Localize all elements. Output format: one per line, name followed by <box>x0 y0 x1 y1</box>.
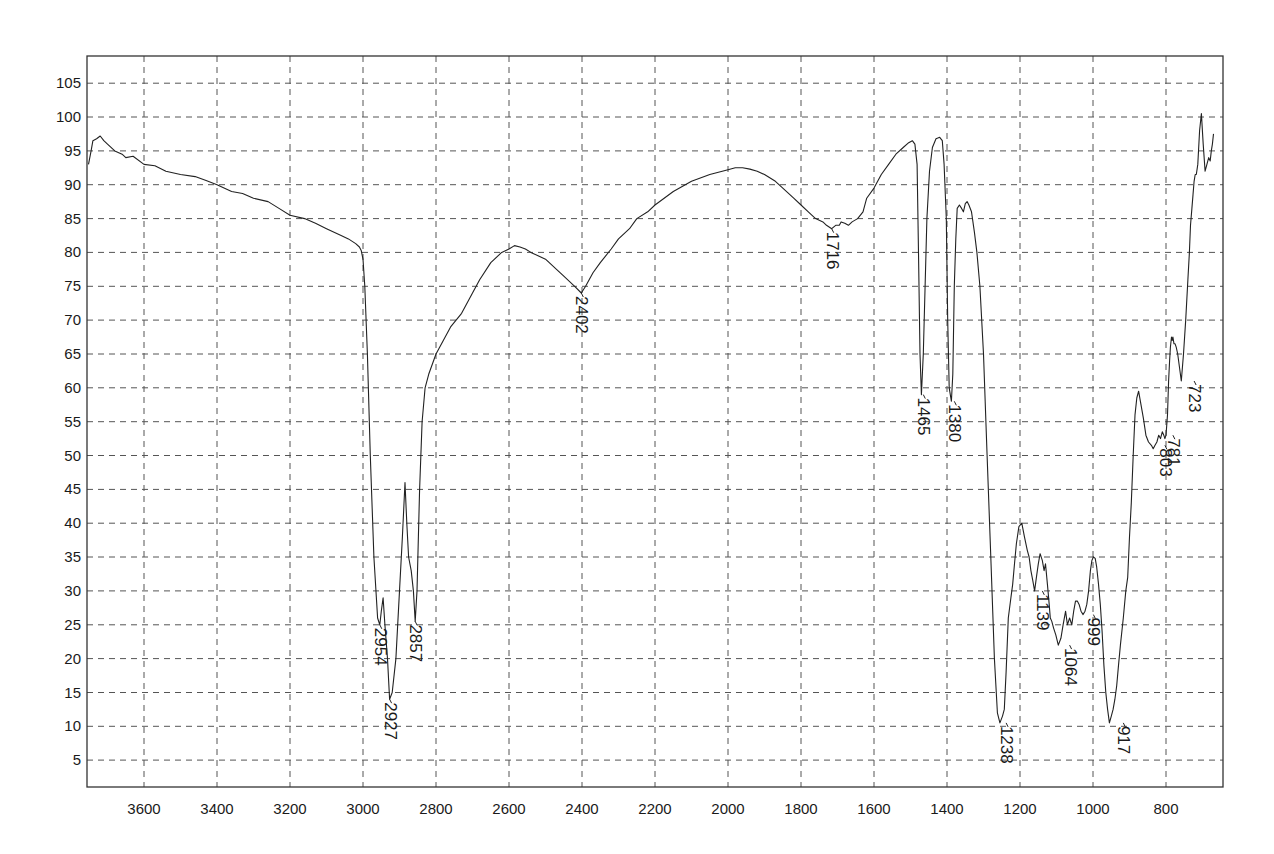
x-tick-label: 2200 <box>638 800 671 817</box>
y-tick-label: 90 <box>64 176 81 193</box>
y-tick-label: 20 <box>64 650 81 667</box>
x-tick-label: 3000 <box>346 800 379 817</box>
y-axis-tick-labels: 5101520253035404550556065707580859095100… <box>56 74 81 768</box>
peak-label: 1064 <box>1061 648 1080 686</box>
y-tick-label: 25 <box>64 616 81 633</box>
peak-label: 2927 <box>381 702 400 740</box>
peak-annotations: 2954292728572402171614651380123811391064… <box>371 229 1204 764</box>
x-tick-label: 1800 <box>784 800 817 817</box>
x-tick-label: 3400 <box>200 800 233 817</box>
x-axis-tick-labels: 3600340032003000280026002400220020001800… <box>127 800 1178 817</box>
x-tick-label: 2600 <box>492 800 525 817</box>
peak-label: 917 <box>1114 726 1133 754</box>
x-tick-label: 1600 <box>857 800 890 817</box>
y-tick-label: 80 <box>64 243 81 260</box>
y-tick-label: 35 <box>64 548 81 565</box>
y-tick-label: 85 <box>64 210 81 227</box>
peak-label: 1139 <box>1033 594 1052 631</box>
peak-label: 2402 <box>572 296 591 334</box>
y-tick-label: 65 <box>64 345 81 362</box>
x-tick-label: 1400 <box>930 800 963 817</box>
y-tick-label: 10 <box>64 717 81 734</box>
peak-label: 1238 <box>997 726 1016 764</box>
y-tick-label: 75 <box>64 277 81 294</box>
x-tick-label: 1000 <box>1076 800 1109 817</box>
x-tick-label: 2400 <box>565 800 598 817</box>
y-tick-label: 50 <box>64 447 81 464</box>
x-tick-label: 1200 <box>1003 800 1036 817</box>
spectrum-line <box>89 114 1214 723</box>
ir-spectrum-chart: 5101520253035404550556065707580859095100… <box>0 0 1274 854</box>
y-tick-label: 30 <box>64 582 81 599</box>
y-tick-label: 55 <box>64 413 81 430</box>
x-tick-label: 3200 <box>273 800 306 817</box>
peak-label: 781 <box>1164 438 1183 466</box>
peak-label: 1716 <box>823 232 842 270</box>
y-tick-label: 70 <box>64 311 81 328</box>
peak-label: 1380 <box>945 404 964 442</box>
x-tick-label: 3600 <box>127 800 160 817</box>
x-tick-label: 800 <box>1153 800 1178 817</box>
y-tick-label: 45 <box>64 480 81 497</box>
grid-lines <box>87 56 1223 787</box>
y-tick-label: 60 <box>64 379 81 396</box>
y-tick-label: 40 <box>64 514 81 531</box>
y-tick-label: 105 <box>56 74 81 91</box>
x-tick-label: 2000 <box>711 800 744 817</box>
peak-label: 1465 <box>914 398 933 436</box>
y-tick-label: 5 <box>73 751 81 768</box>
y-tick-label: 100 <box>56 108 81 125</box>
peak-label: 2857 <box>406 624 425 662</box>
peak-label: 2954 <box>371 628 390 666</box>
peak-label: 723 <box>1185 384 1204 412</box>
y-tick-label: 15 <box>64 684 81 701</box>
peak-label: 999 <box>1084 618 1103 646</box>
y-tick-label: 95 <box>64 142 81 159</box>
x-tick-label: 2800 <box>419 800 452 817</box>
